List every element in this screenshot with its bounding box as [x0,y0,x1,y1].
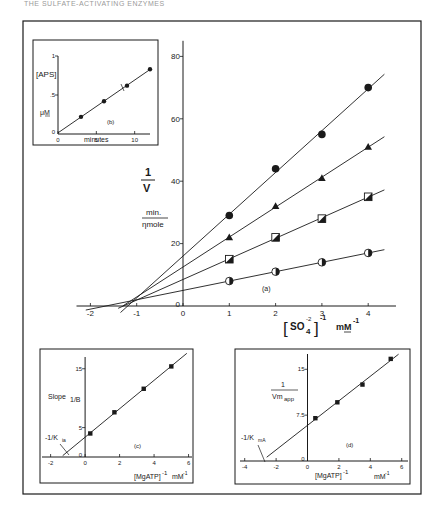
y-tick-label: 15 [75,366,82,372]
a-xlabel-so: SO [290,321,305,332]
d-ylabel-den-sub: app [284,396,295,402]
d-xlabel: [MgATP] [315,472,342,480]
b-xlabel: minutes [84,136,109,143]
a-xlabel-unit-exp: -1 [353,317,359,324]
series-line [86,250,385,310]
x-tick-label: 0 [83,460,87,466]
a-panel-label: (a) [262,285,271,293]
marker-square-filled [313,416,317,420]
a-unit-num: min. [146,208,161,217]
y-tick-label: 7.5 [296,412,305,418]
chart-d: -4-2024607.515 [240,354,408,470]
x-tick-label: 10 [131,137,138,143]
chart-b: 05100.51 [50,53,152,143]
y-tick-label: 0 [52,129,56,135]
y-tick-label: 60 [171,115,180,124]
x-tick-label: 0 [306,464,310,470]
x-tick-label: 4 [366,309,371,318]
marker-square-filled [169,364,173,368]
marker-triangle-filled [226,234,234,241]
marker-square-filled [360,382,364,386]
y-tick-label: 40 [171,177,180,186]
x-tick-label: -4 [242,464,248,470]
marker-circle-filled [226,212,234,220]
inset-d-frame [235,349,410,484]
x-tick-label: -2 [273,464,279,470]
chart-a: -2-101234020406080 [77,41,396,318]
marker-circle-filled [148,67,152,71]
y-tick-label: .5 [50,92,56,98]
d-ylabel-den: Vm [272,393,283,400]
x-tick-label: -1 [133,309,141,318]
c-panel-label: (c) [134,443,141,449]
marker-circle-filled [79,115,83,119]
d-intercept-sub: mA [258,437,266,443]
c-intercept-sub: ia [62,437,66,443]
x-tick-label: 0 [181,309,186,318]
d-intercept-label: -1/K [241,434,254,441]
c-ylabel: Slope [48,393,66,401]
x-tick-label: -2 [48,460,54,466]
c-xlabel-exp: -1 [162,470,168,476]
marker-square-filled [389,357,393,361]
marker-circle-filled [272,165,280,173]
x-tick-label: 6 [187,460,191,466]
y-tick-label: 80 [171,52,180,61]
a-xlabel-lbracket: [ [283,319,288,338]
x-tick-label: 0 [56,137,60,143]
d-intercept-arrow [258,445,265,462]
y-tick-label: 15 [298,366,305,372]
x-tick-label: 6 [400,464,404,470]
x-tick-label: 2 [118,460,122,466]
x-tick-label: -2 [87,309,95,318]
marker-circle-filled [364,84,372,92]
a-ylabel-num: 1 [145,166,151,178]
figure: -2-101234020406080 05100.51 -202460515 -… [0,0,441,510]
y-tick-label: 20 [171,239,180,248]
marker-triangle-filled [364,143,372,150]
a-xlabel-exp: -1 [320,314,326,321]
d-xlabel-exp: -1 [343,469,349,475]
x-tick-label: 4 [369,464,373,470]
x-tick-label: 4 [152,460,156,466]
x-tick-label: 1 [227,309,232,318]
c-ylabel-sub: 1/B [70,396,81,403]
y-tick-label: 0 [176,300,181,309]
d-panel-label: (d) [346,442,353,448]
x-tick-label: 2 [273,309,278,318]
a-xlabel-unit: mM [336,322,352,332]
inset-c-frame [40,349,193,483]
x-tick-label: 2 [337,464,341,470]
b-panel-label: (b) [107,119,114,125]
marker-circle-filled [102,99,106,103]
c-xlabel: [MgATP] [134,473,161,481]
d-xlabel-unit-exp: -1 [385,470,390,476]
marker-square-filled [112,410,116,414]
series-line [267,354,399,457]
c-intercept-arrow [60,444,69,455]
c-xlabel-unit-exp: -1 [183,470,188,476]
d-ylabel-num: 1 [281,381,285,388]
marker-square-filled [335,400,339,404]
marker-circle-filled [125,83,129,87]
a-xlabel-sub: 4 [306,327,311,336]
b-ylabel-top: [APS] [36,70,56,79]
outer-frame [23,21,421,494]
marker-square-filled [142,387,146,391]
a-unit-den: ηmole [142,220,164,229]
marker-square-filled [88,431,92,435]
a-ylabel-den: V [143,182,151,194]
a-xlabel-rbracket: ] [314,319,319,338]
marker-circle-filled [318,131,326,139]
a-xlabel-sup: -2 [306,316,312,322]
c-intercept-label: -1/K [45,434,58,441]
